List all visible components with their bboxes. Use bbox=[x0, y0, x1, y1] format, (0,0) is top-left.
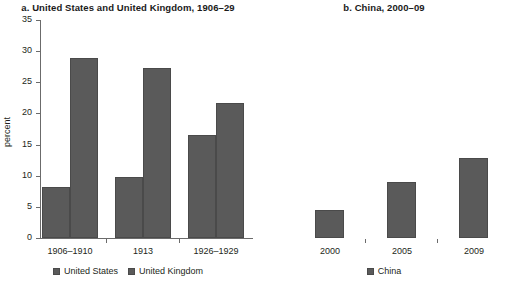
legend-item: China bbox=[367, 266, 402, 276]
x-axis-tick-label: 2009 bbox=[434, 246, 512, 256]
x-axis-tick-label: 1913 bbox=[103, 246, 183, 256]
bar bbox=[216, 103, 244, 238]
y-axis-tick-label: 25 bbox=[10, 77, 32, 86]
y-axis-tick bbox=[36, 20, 40, 21]
panel-a-plot-area: 051015202530351906–191019131926–1929 bbox=[0, 0, 256, 287]
legend-swatch-icon bbox=[53, 268, 60, 275]
y-axis-tick-label: 20 bbox=[10, 108, 32, 117]
y-axis-tick bbox=[36, 145, 40, 146]
panel-b-legend: China bbox=[256, 266, 512, 276]
y-axis-tick-label: 15 bbox=[10, 140, 32, 149]
chart-panel-a: a. United States and United Kingdom, 190… bbox=[0, 0, 256, 287]
bar bbox=[315, 210, 344, 238]
x-axis-line bbox=[40, 238, 253, 239]
legend-item: United Kingdom bbox=[128, 266, 203, 276]
panel-a-y-axis-label: percent bbox=[2, 117, 12, 147]
y-axis-tick-label: 5 bbox=[10, 202, 32, 211]
x-axis-tick bbox=[365, 239, 366, 243]
bar bbox=[70, 58, 98, 238]
bar bbox=[188, 135, 216, 238]
y-axis-tick-label: 0 bbox=[10, 233, 32, 242]
x-axis-tick-label: 1926–1929 bbox=[176, 246, 256, 256]
y-axis-tick-label: 30 bbox=[10, 46, 32, 55]
panel-a-legend: United StatesUnited Kingdom bbox=[0, 266, 256, 276]
y-axis-tick bbox=[36, 113, 40, 114]
y-axis-tick bbox=[36, 82, 40, 83]
legend-label: United States bbox=[64, 266, 118, 276]
bar bbox=[459, 158, 488, 238]
y-axis-tick bbox=[36, 51, 40, 52]
legend-swatch-icon bbox=[367, 268, 374, 275]
x-axis-tick-label: 2005 bbox=[362, 246, 442, 256]
chart-panel-b: b. China, 2000–09 0510152025303520002005… bbox=[256, 0, 512, 287]
y-axis-tick-label: 35 bbox=[10, 15, 32, 24]
x-axis-tick-label: 1906–1910 bbox=[30, 246, 110, 256]
legend-label: United Kingdom bbox=[139, 266, 203, 276]
figure-canvas: a. United States and United Kingdom, 190… bbox=[0, 0, 512, 287]
y-axis-tick-label: 10 bbox=[10, 171, 32, 180]
x-axis-tick bbox=[106, 239, 107, 243]
x-axis-tick-label: 2000 bbox=[290, 246, 370, 256]
y-axis-line bbox=[40, 20, 41, 239]
bar bbox=[143, 68, 171, 238]
y-axis-tick bbox=[36, 176, 40, 177]
y-axis-tick bbox=[36, 207, 40, 208]
legend-swatch-icon bbox=[128, 268, 135, 275]
panel-b-plot-area: 05101520253035200020052009 bbox=[256, 0, 512, 287]
bar bbox=[387, 182, 416, 238]
x-axis-tick bbox=[179, 239, 180, 243]
legend-label: China bbox=[378, 266, 402, 276]
bar bbox=[115, 177, 143, 238]
legend-item: United States bbox=[53, 266, 118, 276]
x-axis-tick bbox=[437, 239, 438, 243]
y-axis-tick bbox=[36, 238, 40, 239]
bar bbox=[42, 187, 70, 238]
